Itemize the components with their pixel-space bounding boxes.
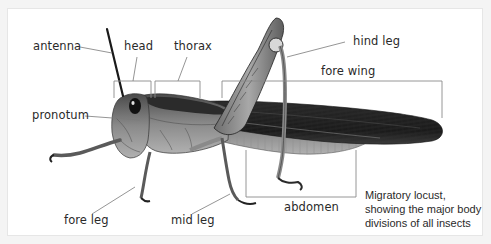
label-fore-leg: fore leg [64, 215, 109, 227]
figure-caption: Migratory locust, showing the major body… [365, 188, 485, 230]
fore-leg-leader [92, 187, 135, 214]
label-head: head [124, 41, 153, 53]
antenna-leader [80, 47, 112, 53]
label-fore-wing: fore wing [321, 66, 375, 78]
label-mid-leg: mid leg [171, 215, 215, 227]
label-abdomen: abdomen [284, 202, 339, 214]
caption-line-3: divisions of all insects [365, 216, 485, 230]
hind-leg-leader [287, 42, 345, 57]
thorax-leader [178, 57, 187, 81]
caption-line-2: showing the major body [365, 202, 485, 216]
label-thorax: thorax [174, 41, 212, 53]
label-hind-leg: hind leg [353, 36, 400, 48]
label-pronotum: pronotum [32, 110, 89, 122]
head-leader [133, 57, 137, 81]
antenna-shape [107, 29, 123, 96]
caption-line-1: Migratory locust, [365, 188, 485, 202]
head-body [112, 94, 150, 158]
mid-leg-leader [192, 194, 230, 214]
label-antenna: antenna [33, 41, 81, 53]
